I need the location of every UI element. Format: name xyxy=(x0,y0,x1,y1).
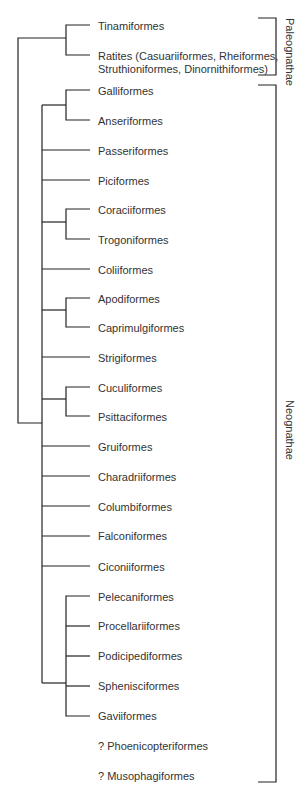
taxon-label: Caprimulgiformes xyxy=(98,322,184,335)
taxon-label: Sphenisciformes xyxy=(98,680,179,693)
taxon-label: Galliformes xyxy=(98,85,154,98)
taxon-label: Ratites (Casuariiformes, Rheiformes, xyxy=(98,50,278,63)
taxon-label: Anseriformes xyxy=(98,115,163,128)
taxon-label: Struthioniformes, Dinornithiformes) xyxy=(98,63,268,76)
taxon-label: Apodiformes xyxy=(98,293,160,306)
taxon-label: Charadriiformes xyxy=(98,471,176,484)
taxon-label: Podicipediformes xyxy=(98,650,182,663)
taxon-label: Columbiformes xyxy=(98,501,172,514)
taxon-label: Coliiformes xyxy=(98,264,153,277)
group-label-paleognathae: Paleognathae xyxy=(284,18,296,86)
taxon-label: Pelecaniformes xyxy=(98,591,174,604)
taxon-label: ? Phoenicopteriformes xyxy=(98,740,208,753)
taxon-label: Trogoniformes xyxy=(98,234,169,247)
taxon-label: Falconiformes xyxy=(98,530,167,543)
taxon-label: Procellariiformes xyxy=(98,620,180,633)
taxon-label: Gruiformes xyxy=(98,441,152,454)
group-label-neognathae: Neognathae xyxy=(284,400,296,460)
taxon-label: Psittaciformes xyxy=(98,411,167,424)
taxon-label: ? Musophagiformes xyxy=(98,770,195,783)
taxon-label: Tinamiformes xyxy=(98,20,164,33)
taxon-label: Ciconiiformes xyxy=(98,561,165,574)
taxon-label: Passeriformes xyxy=(98,145,168,158)
taxon-label: Gaviiformes xyxy=(98,710,157,723)
taxon-label: Piciformes xyxy=(98,175,149,188)
taxon-label: Strigiformes xyxy=(98,352,157,365)
taxon-label: Cuculiformes xyxy=(98,382,162,395)
taxon-label: Coraciiformes xyxy=(98,204,166,217)
